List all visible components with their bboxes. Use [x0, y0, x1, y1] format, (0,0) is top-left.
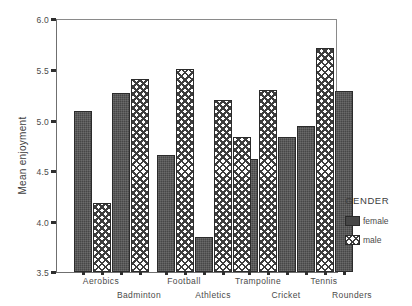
bar-athletics-male	[214, 100, 232, 272]
x-axis-label-trampoline: Trampoline	[235, 276, 281, 286]
x-tick-8	[248, 271, 251, 275]
x-axis-label-rounders: Rounders	[332, 290, 372, 300]
legend: GENDER female male	[345, 195, 389, 254]
x-tick-9	[267, 271, 270, 275]
bar-aerobics-female	[74, 111, 92, 272]
x-tick-1	[101, 271, 104, 275]
bar-athletics-female	[195, 237, 213, 272]
legend-item-male[interactable]: male	[345, 235, 389, 245]
x-tick-5	[184, 271, 187, 275]
y-tick-label-6-0: 6.0	[3, 15, 49, 25]
legend-label-female: female	[363, 216, 389, 226]
bar-badminton-female	[112, 93, 130, 272]
x-axis-label-athletics: Athletics	[195, 290, 231, 300]
y-tick-label-4-0: 4.0	[3, 218, 49, 228]
bar-trampoline-male	[259, 90, 277, 272]
x-tick-0	[82, 271, 85, 275]
y-axis-title: Mean enjoyment	[17, 96, 28, 216]
x-axis-line	[56, 272, 338, 273]
x-tick-13	[343, 271, 346, 275]
x-tick-7	[222, 271, 225, 275]
x-tick-10	[286, 271, 289, 275]
x-tick-2	[120, 271, 123, 275]
bar-aerobics-male	[93, 203, 111, 272]
y-tick-label-3-5: 3.5	[3, 268, 49, 278]
x-axis-label-tennis: Tennis	[311, 276, 338, 286]
x-tick-6	[203, 271, 206, 275]
bar-cricket-male	[233, 137, 251, 272]
bar-chart: 6.0 5.5 5.0 4.5 4.0 3.5 Mean enjoyment A…	[0, 0, 412, 306]
x-axis-label-aerobics: Aerobics	[83, 276, 119, 286]
legend-title: GENDER	[345, 195, 389, 206]
x-tick-3	[139, 271, 142, 275]
legend-swatch-male-icon	[345, 235, 360, 245]
x-tick-4	[165, 271, 168, 275]
bar-tennis-female	[297, 126, 315, 272]
x-axis-label-badminton: Badminton	[117, 290, 161, 300]
bar-tennis-male	[316, 48, 334, 272]
x-axis-label-cricket: Cricket	[271, 290, 300, 300]
x-tick-12	[324, 271, 327, 275]
bar-football-male	[176, 69, 194, 272]
bars-group	[56, 19, 337, 272]
y-tick-label-5-5: 5.5	[3, 66, 49, 76]
bar-football-female	[157, 155, 175, 272]
legend-item-female[interactable]: female	[345, 216, 389, 226]
legend-label-male: male	[363, 235, 381, 245]
legend-swatch-female-icon	[345, 216, 360, 226]
bar-badminton-male	[131, 79, 149, 272]
bar-cricket-female	[278, 137, 296, 272]
x-tick-11	[305, 271, 308, 275]
x-axis-label-football: Football	[167, 276, 200, 286]
